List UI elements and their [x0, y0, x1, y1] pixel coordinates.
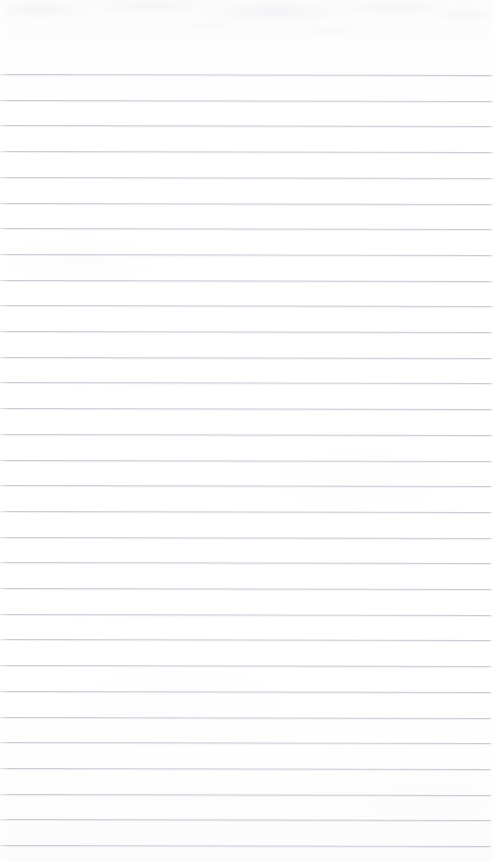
top-margin-area [0, 0, 496, 74]
scanned-page [0, 0, 496, 862]
paper-background [0, 0, 496, 862]
